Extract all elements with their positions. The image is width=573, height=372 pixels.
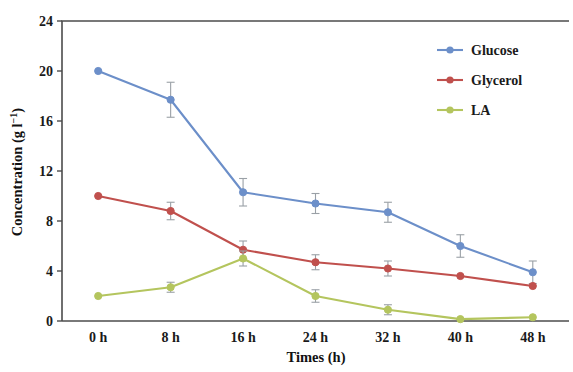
data-point-marker <box>95 67 102 74</box>
data-point-marker <box>384 306 391 313</box>
data-point-marker <box>529 269 536 276</box>
line-chart-canvas: 04812162024 0 h8 h16 h24 h32 h40 h48 h G… <box>0 0 573 372</box>
legend-marker <box>446 76 453 83</box>
legend-item-glycerol: Glycerol <box>437 73 522 88</box>
data-point-marker <box>312 259 319 266</box>
x-axis-title: Times (h) <box>287 349 346 366</box>
y-tick-label: 0 <box>46 314 53 329</box>
y-axis-title: Concentration (g l−1) <box>8 108 27 236</box>
x-tick-label: 16 h <box>230 330 256 345</box>
x-tick-label: 32 h <box>375 330 401 345</box>
y-axis-tick-labels: 04812162024 <box>39 14 53 329</box>
plot-frame <box>62 21 569 321</box>
data-point-marker <box>457 242 464 249</box>
x-axis-tick-labels: 0 h8 h16 h24 h32 h40 h48 h <box>89 330 546 345</box>
x-tick-label: 24 h <box>303 330 329 345</box>
y-tick-label: 8 <box>46 214 53 229</box>
y-tick-label: 16 <box>39 114 53 129</box>
data-point-marker <box>529 314 536 321</box>
data-point-marker <box>384 265 391 272</box>
plot-border <box>62 21 569 321</box>
legend-item-glucose: Glucose <box>437 43 518 58</box>
legend-label: Glucose <box>471 43 518 58</box>
data-point-marker <box>167 207 174 214</box>
x-tick-label: 40 h <box>448 330 474 345</box>
y-tick-label: 20 <box>39 64 53 79</box>
legend-item-la: LA <box>437 103 491 118</box>
x-tick-label: 0 h <box>89 330 108 345</box>
chart-figure: 04812162024 0 h8 h16 h24 h32 h40 h48 h G… <box>0 0 573 372</box>
data-point-marker <box>384 209 391 216</box>
x-tick-label: 8 h <box>161 330 180 345</box>
data-point-marker <box>95 192 102 199</box>
data-point-marker <box>457 272 464 279</box>
data-point-marker <box>239 189 246 196</box>
data-point-marker <box>312 200 319 207</box>
y-tick-label: 4 <box>46 264 53 279</box>
data-point-marker <box>312 292 319 299</box>
legend-marker <box>446 106 453 113</box>
series-line <box>98 71 533 272</box>
legend-marker <box>446 46 453 53</box>
y-tick-label: 24 <box>39 14 53 29</box>
data-point-marker <box>457 316 464 323</box>
data-point-marker <box>167 284 174 291</box>
chart-legend: GlucoseGlycerolLA <box>437 43 522 118</box>
data-point-marker <box>239 255 246 262</box>
legend-label: LA <box>471 103 491 118</box>
data-point-marker <box>95 292 102 299</box>
data-point-marker <box>167 96 174 103</box>
series-glucose <box>95 67 537 283</box>
x-tick-label: 48 h <box>520 330 546 345</box>
error-bars <box>167 251 392 315</box>
y-tick-label: 12 <box>39 164 53 179</box>
legend-label: Glycerol <box>471 73 522 88</box>
data-point-marker <box>529 282 536 289</box>
